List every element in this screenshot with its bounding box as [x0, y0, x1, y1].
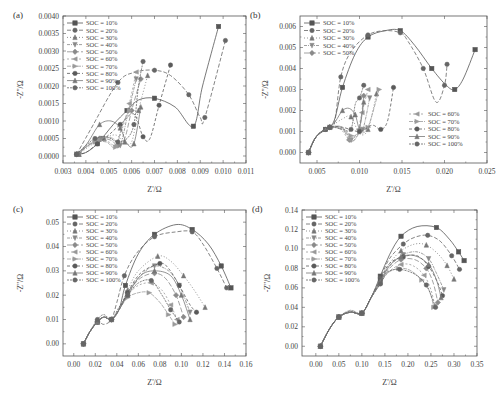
figure: (a)0.0030.0040.0050.0060.0070.0080.0090.…: [0, 0, 496, 400]
data-point-marker: [433, 305, 437, 309]
legend-marker: [312, 215, 316, 219]
data-point-marker: [452, 277, 456, 282]
data-point-marker: [397, 267, 401, 271]
legend-label: SOC = 40%: [325, 234, 357, 241]
legend-label: SOC = 70%: [325, 255, 357, 262]
data-point-marker: [318, 344, 322, 348]
x-tick-label: 0.30: [447, 360, 460, 369]
x-axis-label: Z'/Ω: [382, 378, 397, 387]
legend: SOC = 10%SOC = 20%SOC = 30%SOC = 40%SOC …: [306, 213, 360, 283]
chart-svg: (d)0.000.050.100.150.200.250.300.35Z'/Ω0…: [0, 0, 496, 400]
x-tick-label: 0.20: [401, 360, 414, 369]
panel-label: (d): [252, 204, 263, 214]
data-point-marker: [457, 267, 461, 271]
legend-marker: [312, 264, 316, 268]
y-axis-label: -Z''/Ω: [263, 274, 272, 293]
data-point-marker: [337, 315, 341, 319]
data-point-marker: [449, 254, 453, 258]
y-axis: 0.000.020.040.060.080.100.120.14-Z''/Ω: [263, 206, 477, 351]
y-tick-label: 0.02: [285, 322, 298, 331]
y-tick-label: 0.08: [285, 264, 298, 273]
y-tick-label: 0.12: [285, 225, 298, 234]
y-tick-label: 0.10: [285, 244, 298, 253]
legend-marker: [312, 257, 317, 261]
x-tick-label: 0.25: [424, 360, 437, 369]
legend-marker: [312, 278, 316, 282]
y-tick-label: 0.04: [285, 303, 298, 312]
data-point-marker: [442, 288, 446, 293]
legend-label: SOC = 20%: [325, 220, 357, 227]
data-point-marker: [456, 250, 460, 254]
data-point-marker: [401, 242, 405, 246]
legend-marker: [311, 250, 316, 254]
legend-label: SOC = 50%: [325, 241, 357, 248]
x-tick-label: 0.10: [355, 360, 368, 369]
x-tick-label: 0.35: [470, 360, 483, 369]
y-tick-label: 0.00: [285, 342, 298, 351]
y-tick-label: 0.06: [285, 283, 298, 292]
legend-label: SOC = 60%: [325, 248, 357, 255]
legend-label: SOC = 90%: [325, 269, 357, 276]
legend-label: SOC = 30%: [325, 227, 357, 234]
data-point-marker: [378, 282, 382, 286]
data-point-marker: [421, 273, 426, 277]
data-point-marker: [360, 311, 364, 315]
data-point-marker: [434, 225, 438, 229]
chart-panel-d: (d)0.000.050.100.150.200.250.300.35Z'/Ω0…: [0, 0, 496, 400]
data-point-marker: [426, 233, 430, 237]
x-tick-label: 0.15: [378, 360, 391, 369]
legend-label: SOC = 100%: [325, 276, 360, 283]
data-point-marker: [445, 263, 449, 268]
data-point-marker: [462, 258, 466, 262]
legend-label: SOC = 10%: [325, 213, 357, 220]
y-tick-label: 0.14: [285, 206, 298, 215]
legend-marker: [312, 222, 316, 226]
data-point-marker: [398, 262, 403, 266]
data-point-marker: [424, 283, 428, 287]
x-tick-label: 0.00: [309, 360, 322, 369]
legend-marker: [311, 242, 316, 247]
x-tick-label: 0.05: [332, 360, 345, 369]
data-point-marker: [399, 234, 403, 238]
legend-label: SOC = 80%: [325, 262, 357, 269]
